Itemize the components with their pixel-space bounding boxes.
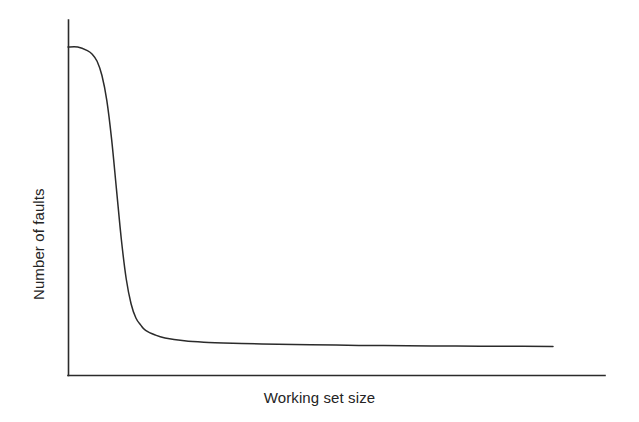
chart-plot-area	[0, 0, 639, 422]
y-axis-label: Number of faults	[30, 40, 50, 300]
x-axis-label: Working set size	[0, 389, 639, 406]
fault-rate-curve	[68, 47, 553, 347]
figure-canvas: Number of faults Working set size	[0, 0, 639, 422]
